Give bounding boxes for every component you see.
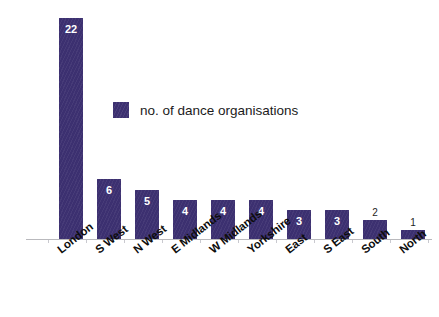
bar-value-label: 5	[135, 195, 159, 207]
bar-slot: 4	[166, 8, 204, 240]
axis-tick	[86, 240, 87, 243]
bar-slot: 1	[394, 8, 432, 240]
bar-slot: 4	[204, 8, 242, 240]
bar-chart: 22654443321 no. of dance organisations L…	[0, 0, 439, 317]
bar-slot: 3	[318, 8, 356, 240]
axis-tick	[314, 240, 315, 243]
bar-value-label: 22	[59, 23, 83, 35]
legend-color-swatch	[113, 102, 129, 118]
axis-tick	[200, 240, 201, 243]
legend-series-label: no. of dance organisations	[140, 103, 298, 118]
bar-slot: 4	[242, 8, 280, 240]
bar-value-label: 1	[401, 217, 425, 228]
bar[interactable]	[59, 18, 83, 240]
bar-slot: 3	[280, 8, 318, 240]
plot-area: 22654443321	[30, 8, 430, 240]
bar-slot: 22	[52, 8, 90, 240]
bar-slot: 6	[90, 8, 128, 240]
axis-tick	[428, 240, 429, 243]
axis-tick	[352, 240, 353, 243]
axis-tick	[238, 240, 239, 243]
axis-tick	[390, 240, 391, 243]
axis-tick	[48, 240, 49, 243]
chart-legend: no. of dance organisations	[113, 102, 298, 118]
axis-tick	[276, 240, 277, 243]
axis-tick	[124, 240, 125, 243]
bar-slot: 2	[356, 8, 394, 240]
bar-value-label: 6	[97, 184, 121, 196]
axis-tick	[162, 240, 163, 243]
bar-slot: 5	[128, 8, 166, 240]
bar-value-label: 2	[363, 207, 387, 218]
bar-value-label: 4	[173, 205, 197, 217]
